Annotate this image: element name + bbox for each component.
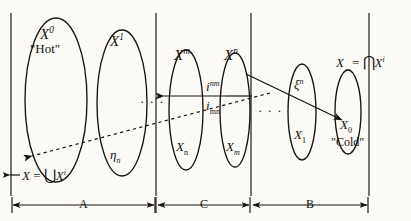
- label-ellipsis-left: · · ·: [140, 95, 165, 108]
- label-X0-caption: "Hot": [30, 42, 60, 55]
- label-i-upper: inm: [206, 80, 219, 93]
- label-Xn-sub: Xn: [176, 140, 188, 157]
- label-Xn-sup: Xn: [224, 47, 238, 63]
- label-X0: X0: [40, 26, 54, 42]
- label-Xm-sup: Xm: [174, 47, 190, 63]
- set-ellipses: [25, 18, 361, 182]
- label-X1-sub: X1: [294, 128, 306, 145]
- formula-inverse-limit: X←= ⋂Xi: [336, 55, 385, 73]
- label-xi-n: ξn: [294, 78, 304, 91]
- label-Xm-sub: Xm: [226, 140, 240, 157]
- bracket-label-A: A: [79, 198, 88, 210]
- label-X0-sub-caption: "Cold": [331, 136, 364, 148]
- bracket-label-C: C: [200, 198, 208, 210]
- label-i-lower: imn: [206, 99, 220, 116]
- label-X1-sup: X1: [110, 33, 124, 49]
- label-eta-n: ηn: [110, 148, 120, 165]
- bracket-rules: [12, 197, 368, 213]
- label-X0-sub: X0: [340, 118, 352, 135]
- formula-union: X = ⋃Xi: [22, 168, 66, 183]
- label-ellipsis-right: · · ·: [258, 104, 283, 117]
- bracket-label-B: B: [306, 198, 314, 210]
- limit-system-diagram: X0 "Hot" X1 Xm Xn ξn Xn Xm X1 X0 "Cold" …: [0, 0, 411, 221]
